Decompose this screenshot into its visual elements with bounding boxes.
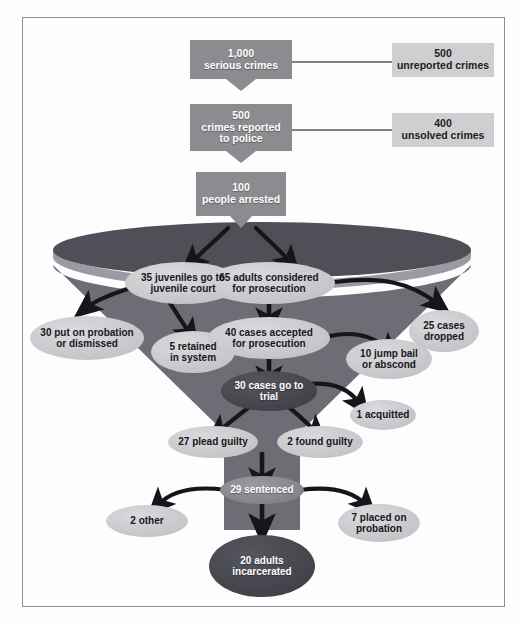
ellipse-sentenced: [220, 476, 304, 504]
arrow-sentenced-to-probation: [300, 489, 366, 505]
ellipse-other: [106, 505, 188, 537]
ellipse-cases-accepted: [208, 317, 330, 359]
ellipse-cases-dropped: [409, 310, 479, 352]
diagram-canvas: 1,000 serious crimes 500 crimes reported…: [0, 0, 525, 627]
ellipse-acquitted: [350, 400, 416, 430]
pentagon-people-arrested: [196, 172, 286, 228]
pentagon-serious-crimes: [190, 40, 292, 91]
ellipse-adults-incarcerated: [209, 535, 315, 597]
ellipse-probation-or-dismissed: [30, 316, 144, 360]
arrow-sentenced-to-other: [158, 489, 226, 505]
ellipse-plead-guilty: [168, 426, 258, 458]
rect-unreported-crimes: [392, 43, 494, 77]
ellipse-placed-on-probation: [338, 504, 420, 542]
rect-unsolved-crimes: [392, 113, 494, 147]
ellipse-cases-go-to-trial: [221, 371, 317, 411]
ellipse-found-guilty: [277, 426, 363, 458]
ellipse-adults-considered: [203, 262, 335, 304]
diagram-graphics: [0, 0, 525, 627]
pentagon-crimes-reported: [190, 104, 292, 163]
